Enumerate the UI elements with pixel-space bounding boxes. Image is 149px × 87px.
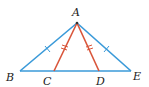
triangle-diagram: A B C D E bbox=[0, 0, 149, 87]
label-A: A bbox=[71, 6, 80, 19]
label-E: E bbox=[132, 70, 141, 83]
label-B: B bbox=[5, 71, 14, 84]
segment-AB bbox=[20, 23, 77, 71]
segment-AC bbox=[54, 23, 77, 71]
vertex-A-dot bbox=[76, 22, 79, 25]
segment-AE bbox=[77, 23, 131, 71]
label-C: C bbox=[43, 75, 52, 87]
segment-AD bbox=[77, 23, 99, 71]
label-D: D bbox=[95, 75, 105, 87]
